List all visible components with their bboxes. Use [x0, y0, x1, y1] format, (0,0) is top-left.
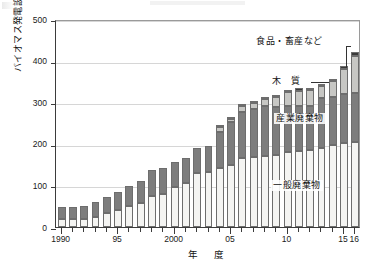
bar-segment-産業廃棄物	[69, 207, 77, 219]
bar-segment-一般廃棄物	[159, 194, 167, 227]
bar-segment-木質	[272, 97, 280, 107]
bar-1998	[148, 170, 156, 227]
bar-segment-食品・畜産など	[295, 88, 303, 90]
x-axis-tick-label: 15	[338, 234, 347, 244]
bar-segment-食品・畜産など	[318, 84, 326, 86]
bar-1999	[159, 168, 167, 227]
bar-segment-木質	[284, 92, 292, 106]
bar-segment-産業廃棄物	[205, 146, 213, 171]
bar-segment-産業廃棄物	[148, 170, 156, 196]
bar-segment-木質	[261, 99, 269, 106]
bar-segment-産業廃棄物	[193, 148, 201, 173]
bar-segment-木質	[216, 127, 224, 132]
bar-segment-産業廃棄物	[137, 181, 145, 203]
bar-segment-一般廃棄物	[272, 155, 280, 227]
x-axis-tick	[83, 228, 84, 232]
bar-segment-産業廃棄物	[340, 94, 348, 143]
bar-1996	[125, 186, 133, 227]
y-axis-tick-label: 400	[17, 57, 47, 66]
x-axis-tick-label: 2000	[164, 234, 183, 244]
bar-2004	[216, 126, 224, 227]
y-axis-tick-label: 300	[17, 99, 47, 108]
bar-segment-一般廃棄物	[137, 203, 145, 227]
bar-segment-一般廃棄物	[103, 213, 111, 227]
x-axis-tick	[128, 228, 129, 232]
bar-segment-木質	[295, 91, 303, 106]
bar-segment-木質	[329, 81, 337, 97]
x-axis-tick	[309, 228, 310, 232]
chart-figure: バイオマス発電設備容量［万 kW］ 0100200300400500 食品・畜産…	[0, 0, 372, 266]
leader-wood	[311, 82, 329, 83]
bar-segment-一般廃棄物	[182, 183, 190, 227]
x-axis-tick-label: 1990	[51, 234, 70, 244]
bar-segment-食品・畜産など	[351, 52, 359, 56]
bar-segment-産業廃棄物	[329, 97, 337, 144]
gridline	[56, 63, 359, 64]
bar-segment-一般廃棄物	[80, 219, 88, 227]
y-axis-tick	[51, 21, 56, 22]
bar-segment-木質	[227, 119, 235, 122]
bar-2016	[351, 52, 359, 227]
bar-segment-産業廃棄物	[159, 168, 167, 193]
x-axis-tick	[253, 228, 254, 232]
y-axis-tick	[51, 63, 56, 64]
bar-segment-一般廃棄物	[351, 142, 359, 227]
bar-segment-一般廃棄物	[216, 168, 224, 227]
bar-segment-食品・畜産など	[261, 97, 269, 99]
x-axis-tick-label: 95	[112, 234, 121, 244]
bar-segment-産業廃棄物	[92, 202, 100, 217]
bar-1994	[103, 197, 111, 227]
x-axis-tick	[219, 228, 220, 232]
y-axis-tick	[51, 104, 56, 105]
bar-2006	[238, 105, 246, 227]
bar-segment-木質	[340, 69, 348, 95]
x-axis-tick	[275, 228, 276, 232]
bar-segment-産業廃棄物	[125, 186, 133, 206]
bar-2005	[227, 117, 235, 227]
bar-segment-産業廃棄物	[114, 192, 122, 209]
bar-2013	[318, 84, 326, 227]
bar-segment-一般廃棄物	[261, 156, 269, 227]
bar-2003	[205, 146, 213, 227]
bar-segment-産業廃棄物	[227, 122, 235, 165]
bar-segment-木質	[306, 90, 314, 106]
bar-segment-一般廃棄物	[227, 165, 235, 227]
x-axis-tick	[298, 228, 299, 232]
x-axis-tick	[72, 228, 73, 232]
x-axis-tick-label: 10	[282, 234, 291, 244]
y-axis-tick	[51, 146, 56, 147]
bar-segment-食品・畜産など	[227, 117, 235, 119]
bar-segment-産業廃棄物	[261, 106, 269, 156]
bar-segment-一般廃棄物	[114, 210, 122, 227]
x-axis-tick	[241, 228, 242, 232]
leader-food-livestock	[346, 47, 347, 67]
bar-2008	[261, 97, 269, 227]
leader-food-livestock-h	[346, 46, 351, 47]
bar-segment-一般廃棄物	[125, 206, 133, 227]
bar-2012	[306, 88, 314, 227]
bar-segment-産業廃棄物	[182, 158, 190, 183]
x-axis-tick	[208, 228, 209, 232]
bar-segment-一般廃棄物	[92, 217, 100, 227]
bar-1997	[137, 181, 145, 227]
bar-segment-産業廃棄物	[58, 207, 66, 219]
x-axis-tick	[332, 228, 333, 232]
bar-2015	[340, 66, 348, 227]
bar-1991	[69, 207, 77, 227]
bar-segment-食品・畜産など	[238, 104, 246, 106]
y-axis-tick-label: 0	[17, 224, 47, 233]
bar-segment-木質	[318, 86, 326, 98]
bar-segment-産業廃棄物	[171, 162, 179, 187]
bar-segment-食品・畜産など	[250, 101, 258, 103]
gridline	[56, 21, 359, 22]
bar-2001	[182, 158, 190, 227]
bar-segment-一般廃棄物	[148, 196, 156, 227]
x-axis-tick	[151, 228, 152, 232]
annotation-一般廃棄物: 一般廃棄物	[271, 180, 323, 191]
x-axis-tick	[106, 228, 107, 232]
bar-segment-産業廃棄物	[238, 112, 246, 159]
y-axis-tick-label: 200	[17, 140, 47, 149]
bar-segment-一般廃棄物	[238, 158, 246, 227]
x-axis-tick-label: 16	[350, 234, 359, 244]
bar-segment-食品・畜産など	[284, 90, 292, 92]
